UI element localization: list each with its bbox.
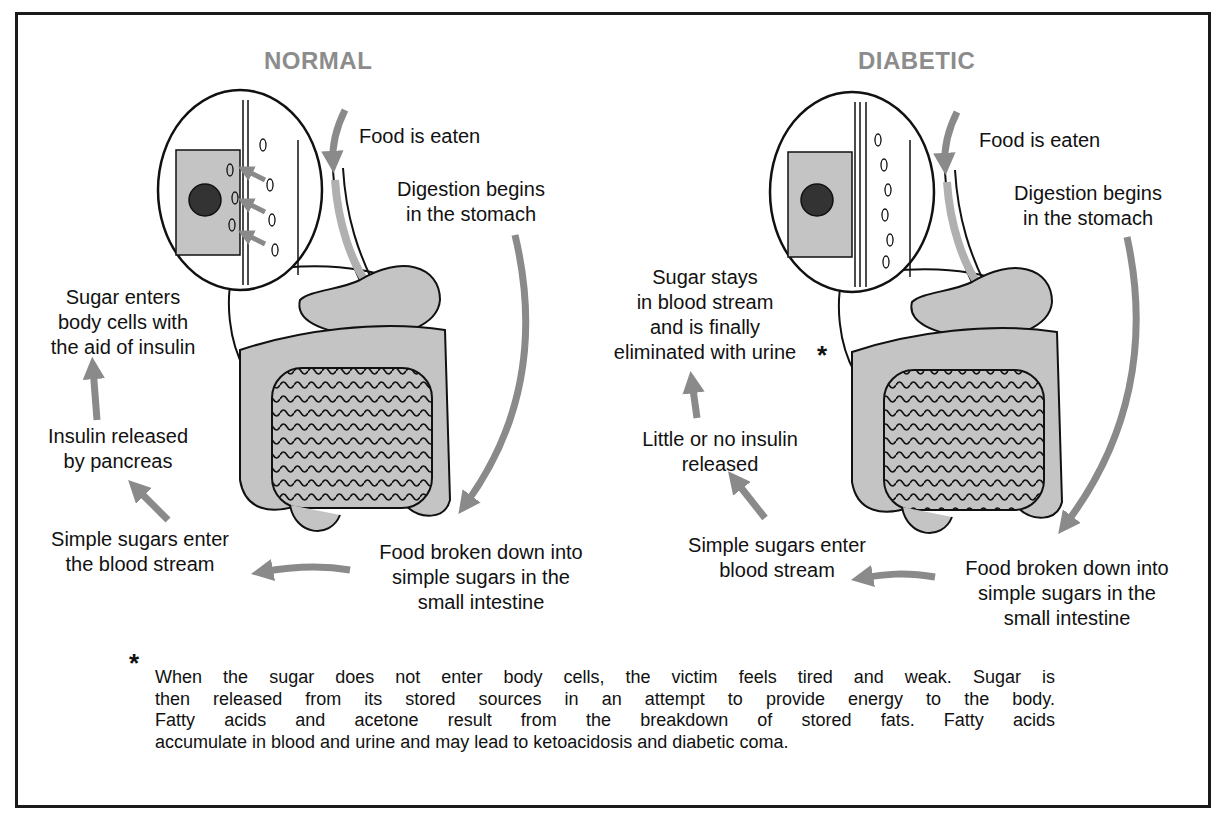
normal-label-sugar-enters-cells: Sugar enters body cells with the aid of … — [28, 285, 218, 360]
normal-label-sugar-enters-line: the aid of insulin — [28, 335, 218, 360]
diabetic-panel-title: DIABETIC — [858, 47, 975, 75]
normal-label-food-broken-line: simple sugars in the — [347, 565, 615, 590]
diabetic-label-simple-sugars: Simple sugars enter blood stream — [664, 533, 890, 583]
diabetic-label-food-broken-line: small intestine — [934, 606, 1200, 631]
footnote-line: When the sugar does not enter body cells… — [155, 667, 1055, 689]
footnote-text: When the sugar does not enter body cells… — [155, 667, 1055, 753]
diabetic-label-digestion: Digestion begins in the stomach — [990, 181, 1186, 231]
normal-label-digestion: Digestion begins in the stomach — [378, 177, 564, 227]
normal-label-simple-sugars: Simple sugars enter the blood stream — [30, 527, 250, 577]
normal-label-digestion-line: Digestion begins — [378, 177, 564, 202]
normal-label-insulin-released: Insulin released by pancreas — [28, 424, 208, 474]
footnote-line: then released from its stored sources in… — [155, 689, 1055, 711]
normal-label-insulin-line: by pancreas — [28, 449, 208, 474]
diabetic-label-sugar-stays-line: in blood stream — [585, 290, 825, 315]
diabetic-label-insulin-line: Little or no insulin — [620, 427, 820, 452]
diabetic-label-food-broken-down: Food broken down into simple sugars in t… — [934, 556, 1200, 631]
footnote-asterisk: * — [129, 648, 139, 679]
arrow-food-to-esophagus — [333, 110, 345, 162]
arrow-pancreas-to-cells — [93, 368, 97, 420]
diabetic-label-digestion-line: Digestion begins — [990, 181, 1186, 206]
diabetic-label-sugar-stays-line: and is finally — [585, 315, 825, 340]
normal-label-food-broken-line: small intestine — [347, 590, 615, 615]
diabetic-label-food-eaten: Food is eaten — [979, 128, 1100, 153]
arrow-food-to-esophagus — [945, 112, 957, 164]
diabetic-label-sugar-stays: Sugar stays in blood stream and is final… — [585, 265, 825, 365]
diabetic-label-digestion-line: in the stomach — [990, 206, 1186, 231]
normal-panel-title: NORMAL — [264, 47, 372, 75]
footnote-line: accumulate in blood and urine and may le… — [155, 732, 1055, 754]
normal-label-insulin-line: Insulin released — [28, 424, 208, 449]
diabetic-label-simple-sugars-line: blood stream — [664, 558, 890, 583]
arrow-stomach-to-intestine — [1065, 237, 1136, 525]
diabetic-cell-magnifier — [770, 92, 934, 292]
diabetic-label-sugar-stays-line: eliminated with urine — [585, 340, 825, 365]
diabetic-label-food-broken-line: Food broken down into — [934, 556, 1200, 581]
normal-label-digestion-line: in the stomach — [378, 202, 564, 227]
arrow-intestine-to-blood — [262, 567, 350, 572]
diabetic-label-food-broken-line: simple sugars in the — [934, 581, 1200, 606]
footnote-line: Fatty acids and acetone result from the … — [155, 710, 1055, 732]
diabetic-label-little-insulin: Little or no insulin released — [620, 427, 820, 477]
diabetic-label-simple-sugars-line: Simple sugars enter — [664, 533, 890, 558]
normal-label-food-broken-line: Food broken down into — [347, 540, 615, 565]
arrow-stomach-to-intestine — [465, 235, 526, 505]
normal-cell-magnifier — [158, 90, 322, 290]
normal-label-simple-sugars-line: the blood stream — [30, 552, 250, 577]
normal-label-sugar-enters-line: Sugar enters — [28, 285, 218, 310]
diabetic-label-insulin-line: released — [620, 452, 820, 477]
normal-label-food-broken-down: Food broken down into simple sugars in t… — [347, 540, 615, 615]
normal-label-simple-sugars-line: Simple sugars enter — [30, 527, 250, 552]
arrow-blood-to-pancreas — [136, 488, 168, 520]
arrow-insulin-to-sugar-stays — [692, 382, 697, 418]
diabetic-label-sugar-stays-line: Sugar stays — [585, 265, 825, 290]
arrow-blood-to-insulin — [735, 480, 765, 518]
diabetic-asterisk-marker: * — [817, 340, 827, 371]
normal-label-food-eaten: Food is eaten — [359, 124, 480, 149]
normal-label-sugar-enters-line: body cells with — [28, 310, 218, 335]
